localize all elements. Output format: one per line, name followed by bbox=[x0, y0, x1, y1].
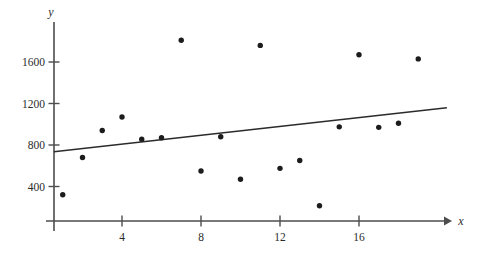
data-point bbox=[238, 177, 243, 182]
y-tick-label: 400 bbox=[28, 181, 46, 193]
x-tick-label: 16 bbox=[353, 231, 365, 243]
data-point-series bbox=[60, 38, 421, 209]
data-point bbox=[100, 128, 105, 133]
x-axis-group: 481216 x bbox=[46, 214, 464, 243]
x-axis-tick-labels: 481216 bbox=[119, 231, 365, 243]
data-point bbox=[337, 124, 342, 129]
scatter-plot-figure: 40080012001600 y 481216 x bbox=[0, 0, 479, 254]
y-axis-group: 40080012001600 y bbox=[22, 5, 60, 231]
data-point bbox=[297, 158, 302, 163]
x-axis-arrow-icon bbox=[444, 217, 452, 226]
data-point bbox=[159, 135, 164, 140]
data-point bbox=[179, 38, 184, 43]
chart-canvas: 40080012001600 y 481216 x bbox=[0, 0, 479, 254]
regression-trendline bbox=[54, 108, 447, 152]
y-tick-label: 1600 bbox=[22, 56, 45, 68]
y-tick-label: 800 bbox=[28, 139, 46, 151]
data-point bbox=[258, 43, 263, 48]
data-point bbox=[80, 155, 85, 160]
data-point bbox=[218, 134, 223, 139]
x-tick-label: 12 bbox=[274, 231, 286, 243]
data-point bbox=[119, 114, 124, 119]
data-point bbox=[317, 203, 322, 208]
x-tick-label: 4 bbox=[119, 231, 125, 243]
data-point bbox=[139, 137, 144, 142]
data-point bbox=[416, 56, 421, 61]
y-tick-label: 1200 bbox=[22, 98, 45, 110]
data-point bbox=[60, 192, 65, 197]
y-axis-label: y bbox=[47, 5, 54, 19]
data-point bbox=[376, 125, 381, 130]
x-tick-label: 8 bbox=[198, 231, 204, 243]
x-axis-label: x bbox=[457, 214, 464, 228]
data-point bbox=[277, 166, 282, 171]
data-point bbox=[198, 168, 203, 173]
data-point bbox=[396, 121, 401, 126]
y-axis-tick-labels: 40080012001600 bbox=[22, 56, 45, 193]
data-point bbox=[356, 52, 361, 57]
